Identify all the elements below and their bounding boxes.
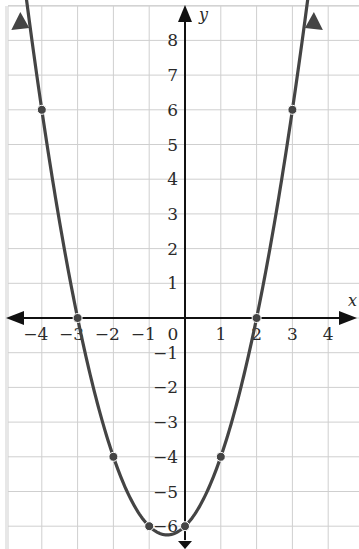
y-tick-label: −2 bbox=[153, 377, 178, 397]
x-axis-right-arrow-icon bbox=[339, 311, 357, 325]
x-tick-label: −1 bbox=[131, 324, 156, 344]
y-tick-label: 4 bbox=[167, 169, 178, 189]
y-axis-down-arrow-icon bbox=[178, 541, 192, 549]
y-tick-label: 6 bbox=[167, 100, 178, 120]
y-tick-label: −4 bbox=[153, 447, 178, 467]
x-tick-label: −2 bbox=[95, 324, 120, 344]
data-point bbox=[181, 522, 190, 531]
y-tick-label: 3 bbox=[167, 204, 178, 224]
y-tick-label: −1 bbox=[153, 343, 178, 363]
data-point bbox=[37, 105, 46, 114]
data-point bbox=[216, 452, 225, 461]
data-point bbox=[73, 314, 82, 323]
grid bbox=[6, 6, 359, 549]
axes: xy bbox=[6, 5, 357, 549]
x-tick-label: 3 bbox=[287, 324, 298, 344]
x-tick-label: 0 bbox=[168, 324, 179, 344]
x-axis-left-arrow-icon bbox=[6, 311, 24, 325]
data-point bbox=[288, 105, 297, 114]
x-axis-label: x bbox=[348, 291, 357, 310]
y-tick-label: −5 bbox=[153, 482, 178, 502]
data-point bbox=[252, 314, 261, 323]
parabola-graph: xy −4−3−2−10123487654321−1−2−3−4−5−6 bbox=[0, 0, 359, 549]
y-tick-label: 2 bbox=[167, 239, 178, 259]
x-tick-label: 1 bbox=[215, 324, 226, 344]
y-axis-up-arrow-icon bbox=[178, 5, 192, 22]
y-tick-label: 1 bbox=[167, 273, 178, 293]
data-point bbox=[145, 522, 154, 531]
y-tick-label: −3 bbox=[153, 412, 178, 432]
data-point bbox=[109, 452, 118, 461]
curve-right-arrow-icon bbox=[305, 12, 323, 30]
x-tick-label: 4 bbox=[323, 324, 334, 344]
y-axis-label: y bbox=[198, 5, 209, 24]
y-tick-label: 7 bbox=[167, 65, 178, 85]
curve-left-arrow-icon bbox=[11, 12, 29, 30]
y-tick-label: 5 bbox=[167, 135, 178, 155]
y-tick-label: 8 bbox=[167, 30, 178, 50]
x-tick-label: −4 bbox=[23, 324, 48, 344]
